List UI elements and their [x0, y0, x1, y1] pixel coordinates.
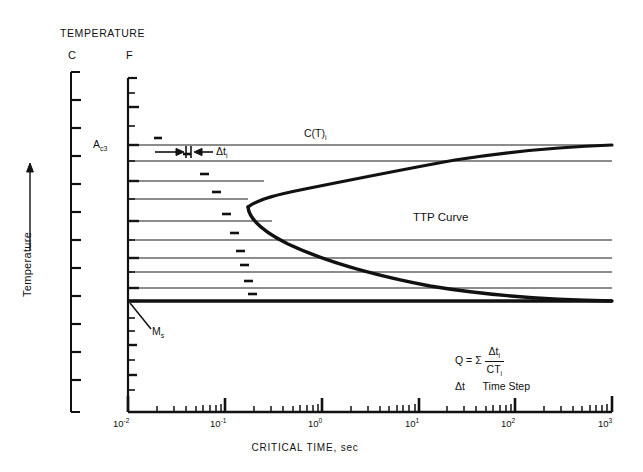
quench-factor-equation: Q = Σ Δti CTi — [455, 345, 504, 378]
delta-ti-subscript: i — [226, 152, 228, 159]
ttp-diagram-canvas — [0, 0, 643, 472]
ac3-label: Ac3 — [93, 139, 107, 152]
ttp-diagram-figure: TEMPERATURE C F Temperature Ac3 Ms C(T)i… — [0, 0, 643, 472]
cti-subscript: i — [325, 134, 327, 141]
ttp-curve-label: TTP Curve — [413, 212, 468, 224]
equation-fraction: Δti CTi — [485, 345, 505, 378]
ms-leader-line — [130, 303, 151, 329]
temperature-header: TEMPERATURE — [60, 28, 145, 39]
x-axis-major-ticks — [128, 396, 612, 412]
celsius-axis — [71, 72, 81, 412]
equation-sigma: Σ — [475, 354, 482, 366]
ttp-curve-upper-branch — [248, 145, 612, 207]
x-axis — [128, 396, 612, 412]
delta-ti-label: Δti — [216, 146, 228, 159]
time-step-text: Time Step — [483, 380, 530, 392]
x-tick-label-1e1: 101 — [405, 418, 419, 429]
cti-label: C(T)i — [304, 128, 327, 141]
x-tick-label-1e-1: 10-1 — [210, 418, 226, 429]
x-tick-label-1e-2: 10-2 — [113, 418, 129, 429]
x-axis-title: CRITICAL TIME, sec — [251, 443, 358, 453]
equation-denominator: CTi — [485, 362, 505, 378]
x-tick-label-1e3: 103 — [598, 418, 612, 429]
fahrenheit-axis — [128, 78, 139, 412]
x-tick-label-1e2: 102 — [501, 418, 515, 429]
delta-ti-annotation — [155, 146, 213, 158]
time-step-legend: Δt Time Step — [455, 381, 530, 392]
ac3-subscript: c3 — [100, 145, 107, 152]
x-tick-label-1e0: 100 — [308, 418, 322, 429]
ms-subscript: s — [161, 332, 165, 339]
celsius-unit-label: C — [68, 50, 76, 61]
fahrenheit-unit-label: F — [126, 50, 133, 61]
ms-label: Ms — [152, 326, 164, 339]
time-step-symbol: Δt — [455, 380, 465, 392]
equation-numerator: Δti — [485, 345, 505, 362]
equation-lhs: Q — [455, 354, 463, 366]
y-axis-title: Temperature — [22, 232, 33, 297]
cooling-curve-lines — [128, 145, 612, 288]
equation-equals: = — [466, 354, 472, 366]
